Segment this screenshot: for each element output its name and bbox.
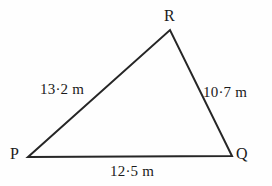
vertex-label-r: R — [164, 8, 175, 24]
side-label-pr: 13·2 m — [40, 82, 84, 97]
side-label-pq: 12·5 m — [110, 164, 154, 179]
vertex-label-q: Q — [236, 146, 248, 162]
side-label-rq: 10·7 m — [203, 85, 247, 100]
triangle-diagram: P Q R 13·2 m 10·7 m 12·5 m — [0, 0, 272, 186]
vertex-label-p: P — [10, 146, 19, 162]
